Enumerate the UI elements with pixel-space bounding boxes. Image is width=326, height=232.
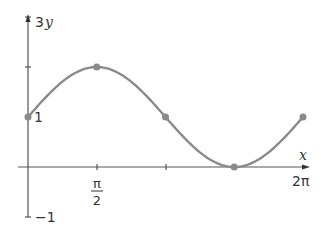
x-2pi-label: 2π — [292, 173, 310, 189]
y-one-label: 1 — [34, 109, 43, 125]
x-axis-label: x — [299, 147, 307, 163]
chart: 3 y 1 −1 x 2π π 2 — [0, 0, 326, 232]
data-point — [300, 114, 307, 121]
y-bottom-label: −1 — [35, 209, 56, 225]
y-top-label: 3 — [35, 14, 44, 30]
x-pi-den-label: 2 — [93, 193, 101, 208]
data-point — [162, 114, 169, 121]
data-point — [93, 64, 100, 71]
axes — [18, 17, 306, 217]
x-axis-arrow-icon — [302, 165, 310, 170]
data-point — [25, 114, 32, 121]
data-point — [231, 164, 238, 171]
y-axis-arrow-icon — [26, 14, 31, 22]
x-pi-num-label: π — [93, 176, 101, 191]
y-axis-label: y — [44, 14, 54, 30]
